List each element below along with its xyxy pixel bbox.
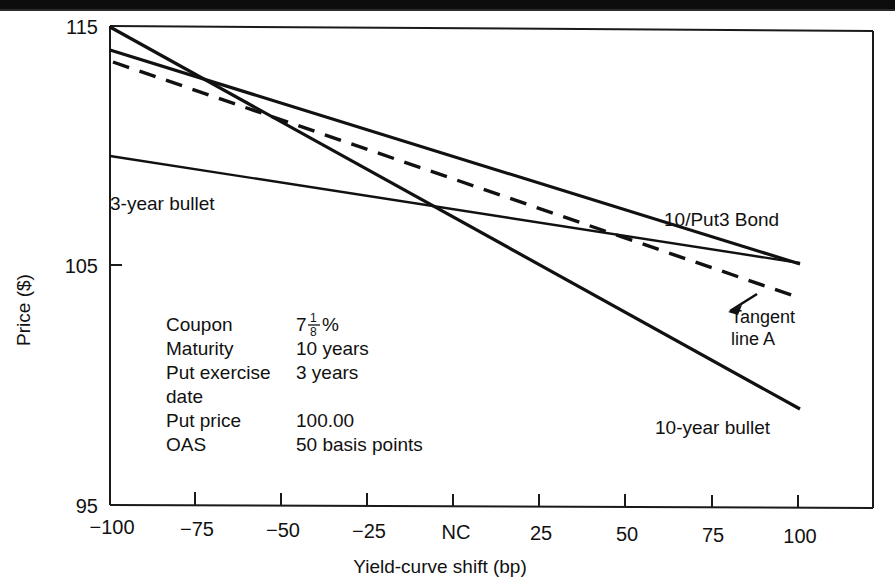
bond-parameter-table: Coupon 7 1 8 % Maturity 10 years Put exe… (166, 311, 423, 455)
param-value-coupon-numerator: 1 (310, 311, 317, 325)
series-line-10-put3-bond (110, 50, 800, 264)
price-yield-chart: 115 105 95 Price ($) −100 −75 −50 −25 NC… (0, 0, 895, 582)
annotation-label-tangent-line-1: Tangent (731, 307, 795, 327)
x-tick-label-minus100: −100 (89, 516, 134, 538)
y-tick-label-105: 105 (65, 255, 98, 277)
param-value-coupon-suffix: % (322, 314, 339, 335)
x-tick-label-nc: NC (442, 521, 471, 543)
param-value-put-exercise: 3 years (296, 362, 358, 383)
series-line-tangent-line-a (113, 62, 800, 298)
param-label-oas: OAS (166, 434, 206, 455)
x-tick-label-minus50: −50 (266, 519, 300, 541)
param-value-coupon-whole: 7 (296, 314, 307, 335)
param-value-put-price: 100.00 (296, 410, 354, 431)
param-label-put-exercise: Put exercise (166, 362, 271, 383)
x-tick-label-50: 50 (616, 523, 638, 545)
series-label-10-put3-bond: 10/Put3 Bond (664, 209, 779, 230)
param-label-put-price: Put price (166, 410, 241, 431)
param-label-put-exercise-date-cont: date (166, 386, 203, 407)
x-tick-label-75: 75 (702, 524, 724, 546)
series-label-3-year-bullet: 3-year bullet (110, 193, 215, 214)
tangent-annotation: Tangent line A (728, 294, 795, 349)
y-tick-label-115: 115 (66, 16, 98, 38)
param-value-oas: 50 basis points (296, 434, 423, 455)
param-label-maturity: Maturity (166, 338, 234, 359)
annotation-label-tangent-line-2: line A (731, 329, 775, 349)
x-tick-label-minus25: −25 (352, 520, 386, 542)
y-tick-label-95: 95 (76, 495, 98, 517)
param-value-maturity: 10 years (296, 338, 369, 359)
x-tick-label-100: 100 (783, 525, 816, 547)
series-label-10-year-bullet: 10-year bullet (655, 417, 771, 438)
param-label-coupon: Coupon (166, 314, 233, 335)
y-axis-title: Price ($) (13, 274, 34, 346)
x-tick-label-25: 25 (530, 522, 552, 544)
x-tick-label-minus75: −75 (180, 518, 214, 540)
param-value-coupon-denominator: 8 (310, 325, 317, 339)
figure-container: 115 105 95 Price ($) −100 −75 −50 −25 NC… (0, 0, 895, 582)
x-axis-title: Yield-curve shift (bp) (353, 556, 527, 577)
